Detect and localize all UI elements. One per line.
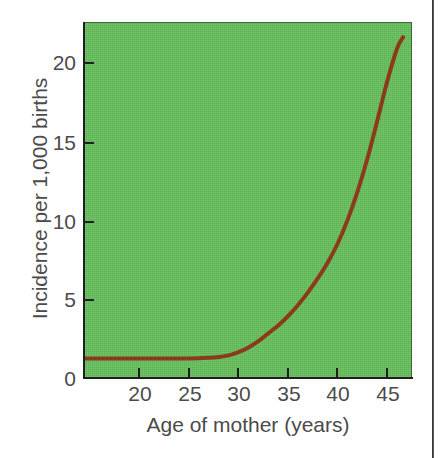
y-tick-label-0: 0: [10, 368, 76, 389]
incidence-curve: [85, 37, 403, 358]
x-tick-30: [237, 368, 239, 379]
incidence-by-maternal-age-chart: 20 15 10 5 0 20 25 30 35 40 45 Age of mo…: [0, 0, 432, 458]
chart-page: 20 15 10 5 0 20 25 30 35 40 45 Age of mo…: [0, 0, 441, 458]
y-tick-20: [85, 62, 94, 64]
plot-area: [84, 22, 412, 378]
y-axis-title: Incidence per 1,000 births: [29, 34, 50, 364]
x-tick-label-45: 45: [363, 383, 413, 404]
x-tick-25: [188, 368, 190, 379]
y-tick-15: [85, 142, 94, 144]
x-tick-label-25: 25: [165, 383, 215, 404]
x-axis-title: Age of mother (years): [84, 414, 412, 435]
x-tick-label-30: 30: [214, 383, 264, 404]
x-tick-label-35: 35: [264, 383, 314, 404]
x-tick-35: [287, 368, 289, 379]
x-tick-45: [386, 368, 388, 379]
x-axis-line: [84, 377, 413, 379]
x-tick-label-40: 40: [313, 383, 363, 404]
y-tick-5: [85, 299, 94, 301]
x-tick-label-20: 20: [115, 383, 165, 404]
y-tick-10: [85, 221, 94, 223]
x-tick-40: [336, 368, 338, 379]
page-margin: [434, 0, 441, 458]
curve-svg: [85, 23, 413, 379]
x-tick-20: [138, 368, 140, 379]
y-axis-line: [83, 22, 85, 379]
